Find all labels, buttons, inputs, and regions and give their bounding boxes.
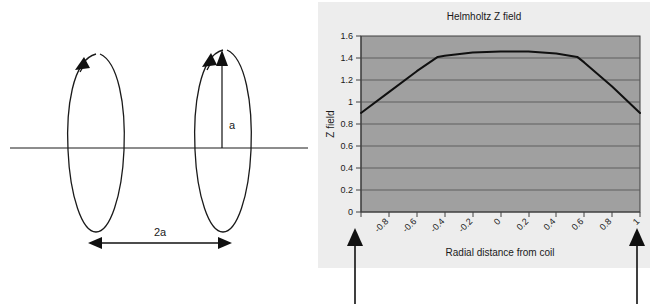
figure-canvas: a 2a Helmholtz Z field: [0, 0, 658, 304]
y-tick-label: 0.8: [340, 119, 353, 129]
y-tick-label: 0: [348, 207, 353, 217]
chart-title: Helmholtz Z field: [447, 11, 521, 22]
radius-label: a: [229, 119, 236, 131]
helmholtz-z-field-chart: Helmholtz Z field: [318, 2, 650, 268]
y-tick-label: 0.2: [340, 185, 353, 195]
y-tick-label: 1.4: [340, 53, 353, 63]
x-axis-title: Radial distance from coil: [446, 247, 555, 258]
figure-root: a 2a Helmholtz Z field: [0, 0, 658, 304]
y-tick-label: 1: [348, 97, 353, 107]
y-tick-label: 1.6: [340, 31, 353, 41]
y-tick-label: 1.2: [340, 75, 353, 85]
y-tick-label: 0.4: [340, 163, 353, 173]
y-axis-tick-labels: 0 0.2 0.4 0.6 0.8 1 1.2 1.4 1.6: [340, 31, 353, 217]
y-tick-label: 0.6: [340, 141, 353, 151]
separation-label: 2a: [154, 226, 167, 238]
y-axis-title: Z field: [325, 110, 336, 137]
